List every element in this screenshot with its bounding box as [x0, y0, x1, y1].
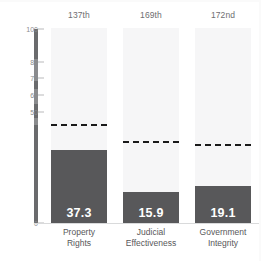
bar-chart: 137th 169th 172nd 100 80 70 60 50 0 — [0, 0, 261, 261]
category-label-property-rights: Property Rights — [43, 227, 115, 257]
category-label-line-2: Effectiveness — [115, 238, 187, 249]
bar-value-government-integrity: 19.1 — [210, 206, 235, 223]
reference-line-government-integrity — [195, 144, 251, 146]
reference-line-property-rights — [51, 124, 107, 126]
rank-label-government-integrity: 172nd — [187, 6, 259, 24]
y-tick-label-60: 60 — [8, 92, 38, 99]
bar-judicial-effectiveness[interactable]: 15.9 — [123, 192, 179, 223]
category-label-line-1: Government — [187, 227, 259, 238]
y-tick-label-50: 50 — [8, 109, 38, 116]
right-edge-strip — [259, 0, 261, 261]
bar-value-judicial-effectiveness: 15.9 — [138, 206, 163, 223]
column-property-rights: 37.3 — [43, 28, 115, 223]
bar-value-property-rights: 37.3 — [66, 206, 91, 223]
category-label-row: Property Rights Judicial Effectiveness G… — [43, 227, 259, 257]
column-government-integrity: 19.1 — [187, 28, 259, 223]
category-label-line-2: Integrity — [187, 238, 259, 249]
y-tick-label-100: 100 — [8, 26, 38, 33]
category-label-line-2: Rights — [43, 238, 115, 249]
category-label-judicial-effectiveness: Judicial Effectiveness — [115, 227, 187, 257]
rank-label-row: 137th 169th 172nd — [43, 6, 259, 24]
y-tick-label-70: 70 — [8, 75, 38, 82]
category-label-line-1: Property — [43, 227, 115, 238]
rank-label-property-rights: 137th — [43, 6, 115, 24]
column-judicial-effectiveness: 15.9 — [115, 28, 187, 223]
category-label-line-1: Judicial — [115, 227, 187, 238]
top-edge-strip — [0, 0, 261, 2]
column-group: 37.3 15.9 19.1 — [43, 28, 259, 223]
y-tick-label-80: 80 — [8, 59, 38, 66]
bar-government-integrity[interactable]: 19.1 — [195, 186, 251, 223]
rank-label-judicial-effectiveness: 169th — [115, 6, 187, 24]
x-axis-baseline — [34, 223, 259, 224]
reference-line-judicial-effectiveness — [123, 141, 179, 143]
category-label-government-integrity: Government Integrity — [187, 227, 259, 257]
bar-property-rights[interactable]: 37.3 — [51, 150, 107, 223]
plot-area: 37.3 15.9 19.1 — [43, 28, 259, 223]
